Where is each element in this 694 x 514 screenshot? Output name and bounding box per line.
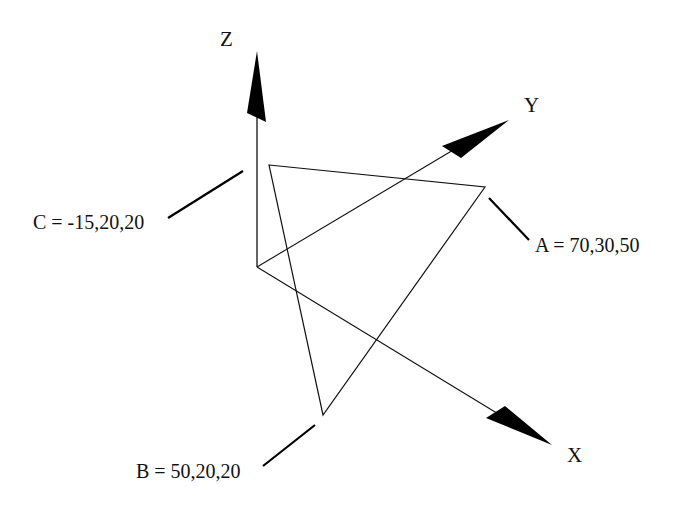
point-label-c: C = -15,20,20: [33, 211, 144, 233]
triangle-abc: [269, 165, 485, 415]
leader-line-b: [263, 425, 315, 466]
point-label-a: A = 70,30,50: [535, 234, 640, 256]
z-arrowhead-icon: [247, 51, 266, 122]
leader-line-a: [489, 198, 529, 240]
3d-axes-triangle-diagram: Z Y X A = 70,30,50 B = 50,20,20 C = -15,…: [0, 0, 694, 514]
z-axis-label: Z: [220, 27, 233, 51]
x-axis-label: X: [567, 443, 582, 467]
z-axis: Z: [220, 27, 266, 267]
y-axis-label: Y: [524, 93, 539, 117]
y-arrowhead-icon: [442, 120, 509, 158]
x-axis: X: [257, 267, 582, 467]
y-axis: Y: [257, 93, 539, 267]
point-label-b: B = 50,20,20: [136, 460, 241, 482]
leader-line-c: [168, 171, 243, 218]
x-arrowhead-icon: [486, 406, 552, 445]
